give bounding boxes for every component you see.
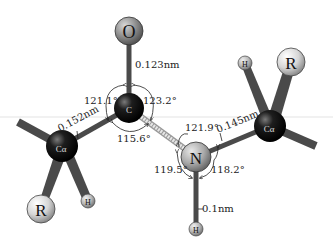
atom-label-ca-left: Cα xyxy=(56,144,67,154)
bond-length-c-o: 0.123nm xyxy=(135,59,180,70)
atom-ca-right: Cα xyxy=(254,110,286,142)
atom-label-r-right: R xyxy=(285,54,297,73)
bond-length-n-h: 0.1nm xyxy=(202,203,234,214)
atom-h-left: H xyxy=(81,194,95,208)
atom-carbonyl-c: C xyxy=(114,93,144,123)
angle-label-o-c-n: 123.2° xyxy=(143,95,177,106)
atom-label-h-left: H xyxy=(85,198,91,207)
angle-label-ca-c-n: 115.6° xyxy=(117,133,151,144)
atom-r-right: R xyxy=(277,48,305,76)
atom-h-bottom: H xyxy=(189,222,203,236)
atom-h-right: H xyxy=(238,56,252,70)
peptide-bond-diagram: O C Cα R H N H Cα H R 0.123nm 0.152nm 0.… xyxy=(0,0,333,247)
angle-label-o-c-ca: 121.1° xyxy=(84,95,118,106)
atom-ca-left: Cα xyxy=(46,130,78,162)
atom-label-r-left: R xyxy=(35,201,47,220)
arc-ca-c-n xyxy=(112,122,148,132)
atom-r-left: R xyxy=(27,195,55,223)
atom-label-o: O xyxy=(123,22,136,42)
angle-label-c-n-h: 119.5° xyxy=(154,164,188,175)
angle-label-c-n-ca: 121.9° xyxy=(185,122,219,133)
angle-label-ca-n-h: 118.2° xyxy=(211,164,245,175)
atom-label-ca-right: Cα xyxy=(264,124,275,134)
atom-label-h-bottom: H xyxy=(193,226,199,235)
atom-label-n: N xyxy=(190,149,202,168)
atom-label-h-right: H xyxy=(242,60,248,69)
atom-o: O xyxy=(115,17,143,45)
atom-label-c: C xyxy=(126,105,132,115)
